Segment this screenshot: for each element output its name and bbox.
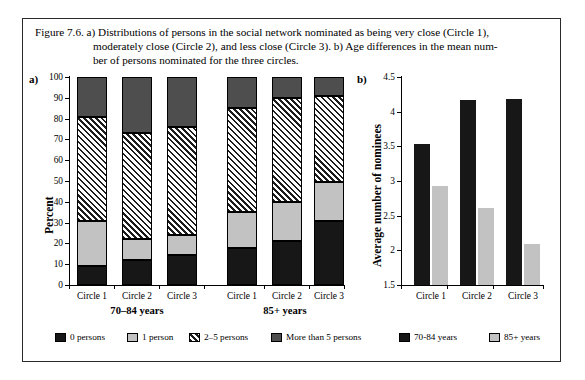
panel-a-ytick-90: 90 — [41, 93, 63, 103]
panel-a-bar-g1-c1-seg-0-persons — [77, 266, 107, 285]
panel-a-x-axis-line — [69, 285, 344, 286]
panel-b-ytick-1-5: 1.5 — [375, 280, 395, 290]
caption-line-2: moderately close (Circle 2), and less cl… — [35, 39, 551, 53]
panel-b-bar-circle-3-85-plus-years — [524, 244, 540, 285]
legend-label-85-plus-years: 85+ years — [504, 332, 540, 343]
caption-line-1: Figure 7.6. a) Distributions of persons … — [35, 25, 551, 39]
panel-a-xlabel-g1-circle-1: Circle 1 — [77, 291, 107, 301]
panel-a-tag: a) — [29, 73, 38, 85]
panel-b-bar-circle-1-85-plus-years — [432, 186, 448, 285]
panel-a-bar-g2-c2-seg-more-than-5-persons — [272, 77, 302, 98]
panel-a-bar-g2-c1-seg-2-5-persons — [227, 108, 257, 212]
panel-a-bar-g2-c2-seg-2-5-persons — [272, 98, 302, 202]
panel-b-ytick-2-5: 2.5 — [375, 211, 395, 221]
panel-b-xtick-3 — [543, 285, 544, 289]
panel-a-ytick-40: 40 — [41, 197, 63, 207]
panel-b-y-axis-line — [401, 76, 402, 286]
panel-b-x-axis-line — [401, 285, 543, 286]
panel-b-bar-circle-3-70-84-years — [506, 99, 522, 285]
panel-a-xtick-5 — [309, 285, 310, 289]
panel-b-bar-circle-1-70-84-years — [414, 144, 430, 286]
panel-a-ytick-60: 60 — [41, 155, 63, 165]
panel-a-bar-g2-c2-seg-1-person — [272, 202, 302, 242]
panel-b-ytick-3: 3 — [375, 176, 395, 186]
panel-a-bar-g1-c1-seg-more-than-5-persons — [77, 77, 107, 117]
panel-a-bar-g1-c3-seg-0-persons — [167, 255, 197, 285]
panel-a-bar-g1-c2-seg-more-than-5-persons — [122, 77, 152, 133]
panel-a-bar-g1-c3-seg-more-than-5-persons — [167, 77, 197, 127]
panel-a-xlabel-g2-circle-1: Circle 1 — [227, 291, 257, 301]
panel-b-ytick-4-5: 4.5 — [375, 72, 395, 82]
panel-a-ytick-20: 20 — [41, 238, 63, 248]
panel-a-y-axis-line — [69, 76, 70, 286]
panel-a-xtick-4 — [264, 285, 265, 289]
panel-a-ytick-10: 10 — [41, 259, 63, 269]
panel-a-xlabel-g2-circle-2: Circle 2 — [272, 291, 302, 301]
panel-a-bar-g1-c3-seg-1-person — [167, 235, 197, 255]
panel-a-bar-g2-c3-seg-more-than-5-persons — [314, 77, 344, 96]
legend-swatch-more-than-5-persons — [271, 333, 282, 342]
figure-frame: Figure 7.6. a) Distributions of persons … — [22, 18, 561, 362]
panel-a-bar-g1-c1-seg-1-person — [77, 221, 107, 267]
panel-a-bar-g1-c2-seg-1-person — [122, 239, 152, 260]
panel-a-bar-g2-c3-seg-2-5-persons — [314, 96, 344, 182]
panel-a-ytick-70: 70 — [41, 134, 63, 144]
panel-a-xlabel-g1-circle-2: Circle 2 — [122, 291, 152, 301]
panel-b-xtick-2 — [493, 285, 494, 289]
panel-a-xtick-6 — [344, 285, 345, 289]
legend-label-2-5-persons: 2–5 persons — [204, 332, 248, 343]
panel-a-xtick-2 — [159, 285, 160, 289]
panel-a-bar-g1-c1-seg-2-5-persons — [77, 117, 107, 221]
panel-b-tag: b) — [357, 73, 367, 85]
panel-a-bar-g1-c2-seg-2-5-persons — [122, 133, 152, 239]
panel-b-xlabel-circle-3: Circle 3 — [508, 291, 538, 301]
panel-a-bar-g2-c1-seg-1-person — [227, 212, 257, 247]
legend-label-more-than-5-persons: More than 5 persons — [286, 332, 361, 343]
panel-a-xtick-0 — [69, 285, 70, 289]
legend-swatch-0-persons — [55, 333, 66, 342]
panel-a-xtick-3 — [204, 285, 205, 289]
panel-b-ytick-2: 2 — [375, 245, 395, 255]
panel-a-bar-g2-c1-seg-more-than-5-persons — [227, 77, 257, 108]
panel-a-group-label-70-84-years: 70–84 years — [110, 305, 163, 316]
legend-swatch-2-5-persons — [189, 333, 200, 342]
legend-swatch-70-84-years — [399, 333, 410, 342]
panel-a-xlabel-g2-circle-3: Circle 3 — [314, 291, 344, 301]
legend-label-0-persons: 0 persons — [70, 332, 105, 343]
legend-label-1-person: 1 person — [142, 332, 173, 343]
legend-swatch-85-plus-years — [489, 333, 500, 342]
legend-swatch-1-person — [127, 333, 138, 342]
panel-a-ytick-50: 50 — [41, 176, 63, 186]
panel-a-ytick-80: 80 — [41, 114, 63, 124]
panel-b-xtick-0 — [401, 285, 402, 289]
panel-a-bar-g1-c2-seg-0-persons — [122, 260, 152, 285]
caption-line-3: ber of persons nominated for the three c… — [35, 53, 551, 67]
panel-a-bar-g2-c3-seg-0-persons — [314, 221, 344, 286]
panel-b-xlabel-circle-1: Circle 1 — [416, 291, 446, 301]
chart-legend: 0 persons 1 person 2–5 persons More than… — [23, 329, 562, 351]
panel-a-bar-g2-c1-seg-0-persons — [227, 248, 257, 285]
panel-b-xlabel-circle-2: Circle 2 — [462, 291, 492, 301]
legend-label-70-84-years: 70-84 years — [414, 332, 457, 343]
panel-b-bar-circle-2-70-84-years — [460, 100, 476, 285]
panel-b-ytick-3-5: 3.5 — [375, 141, 395, 151]
panel-a-bar-g2-c3-seg-1-person — [314, 182, 344, 221]
panel-a-bar-g2-c2-seg-0-persons — [272, 241, 302, 285]
panel-b-bar-circle-2-85-plus-years — [478, 208, 494, 285]
panel-b-ytick-4: 4 — [375, 107, 395, 117]
panel-a-bar-g1-c3-seg-2-5-persons — [167, 127, 197, 235]
panel-a-xlabel-g1-circle-3: Circle 3 — [167, 291, 197, 301]
figure-caption: Figure 7.6. a) Distributions of persons … — [35, 25, 551, 68]
panel-a-ytick-0: 0 — [41, 280, 63, 290]
panel-a-ytick-30: 30 — [41, 218, 63, 228]
panel-a-ytick-100: 100 — [41, 72, 63, 82]
panel-b-xtick-1 — [447, 285, 448, 289]
panel-a-xtick-1 — [114, 285, 115, 289]
panel-a-group-label-85-plus-years: 85+ years — [263, 305, 306, 316]
